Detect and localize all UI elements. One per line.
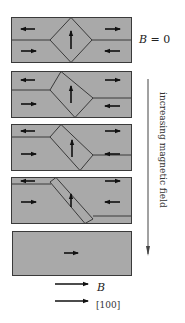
panel-4 — [12, 178, 132, 224]
legend-direction-label: [100] — [96, 300, 120, 310]
legend-field-label: B — [97, 281, 105, 294]
axis-label: increasing magnetic field — [158, 92, 168, 208]
field-zero-label: B = 0 — [139, 33, 170, 46]
panel-5 — [13, 232, 132, 276]
arrow-down-icon — [146, 246, 150, 256]
field-eq: = 0 — [147, 33, 170, 46]
legend — [55, 284, 88, 301]
field-axis-arrow — [146, 79, 150, 256]
panel-1 — [12, 18, 132, 63]
panel-2 — [12, 72, 132, 118]
field-var: B — [139, 33, 147, 46]
panel-3 — [12, 125, 132, 171]
